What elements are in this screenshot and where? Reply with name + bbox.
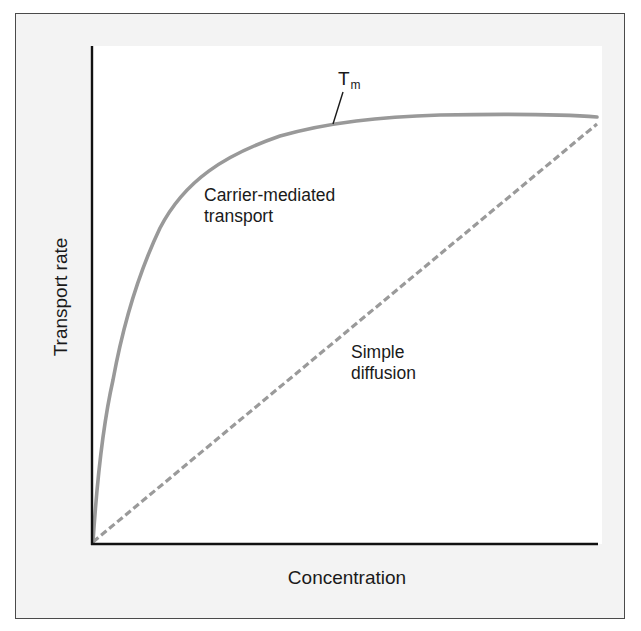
tm-label: Tm	[338, 68, 361, 96]
carrier-mediated-label-line1: Carrier-mediated	[204, 185, 335, 206]
tm-leader-line	[333, 92, 343, 124]
chart-canvas	[0, 0, 641, 631]
y-axis-label: Transport rate	[51, 238, 70, 357]
simple-diffusion-label-line1: Simple	[351, 342, 416, 363]
simple-diffusion-line	[93, 124, 597, 542]
tm-label-main: T	[338, 68, 350, 89]
simple-diffusion-label: Simple diffusion	[351, 342, 416, 384]
tm-label-subscript: m	[351, 78, 361, 92]
carrier-mediated-label: Carrier-mediated transport	[204, 185, 335, 227]
carrier-mediated-label-line2: transport	[204, 206, 335, 227]
simple-diffusion-label-line2: diffusion	[351, 363, 416, 384]
x-axis-label: Concentration	[240, 568, 454, 587]
